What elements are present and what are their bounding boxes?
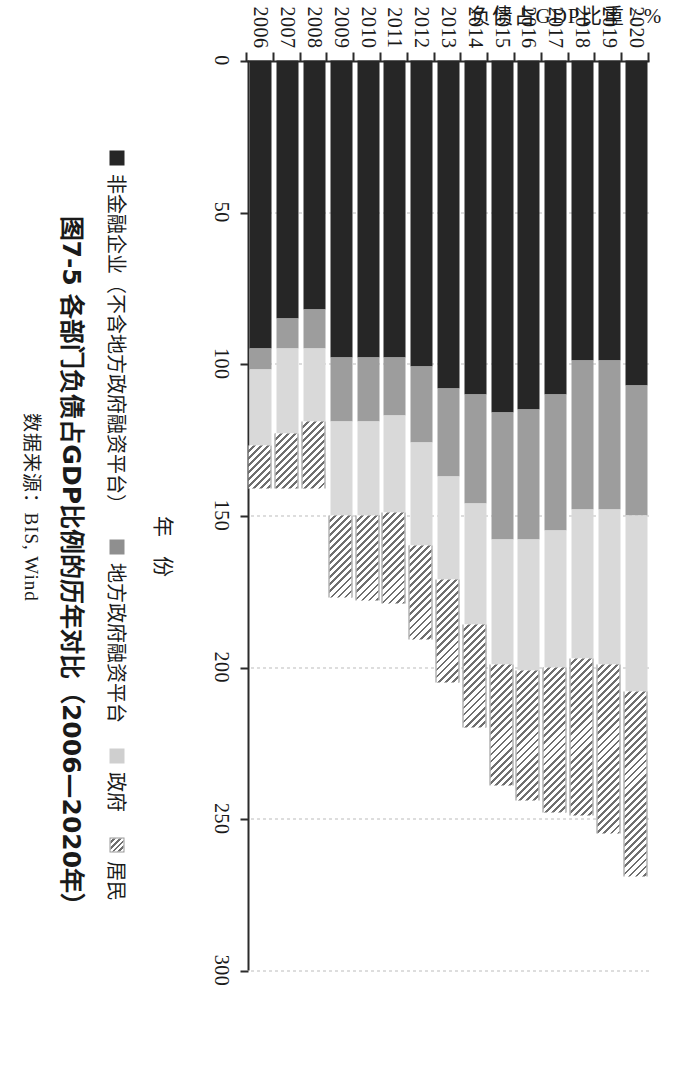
bar-segment-corporate [303,60,325,309]
bar-segment-household [408,545,432,639]
bar-segment-corporate [276,60,298,318]
bar-segment-corporate [517,60,539,409]
light-gray-solid-swatch [109,748,124,763]
bar-2019 [598,60,620,833]
bar-2014 [464,60,486,727]
bar-segment-lgfv [544,394,566,531]
bar-segment-lgfv [517,409,539,539]
hatched-swatch [109,837,124,852]
bar-2010 [357,60,379,600]
bar-segment-lgfv [410,366,432,442]
bar-segment-household [542,667,566,813]
category-tick [620,52,622,61]
value-tick [240,515,248,517]
bar-segment-lgfv [249,348,271,369]
bar-segment-lgfv [383,357,405,415]
bar-segment-corporate [491,60,513,412]
value-tick [240,212,248,214]
bar-2009 [330,60,352,597]
gridline [247,818,649,819]
data-source-note: 数据来源：BIS, Wind [19,412,46,601]
value-tick-label: 0 [209,55,232,66]
value-tick [240,667,248,669]
category-tick [540,52,542,61]
bar-segment-household [301,421,325,488]
bar-segment-lgfv [330,357,352,421]
bar-segment-household [274,433,298,488]
bar-2006 [249,60,271,488]
bar-segment-household [328,515,352,597]
category-label-2008: 2008 [303,6,326,48]
bar-segment-corporate [625,60,647,385]
legend-item-corporate: 非金融企业（不含地方政府融资平台） [102,150,131,513]
legend-label: 政府 [102,771,131,811]
y-axis-title: 负债占GDP比重 / % [469,0,662,28]
category-tick [459,52,461,61]
bar-segment-household [596,664,620,834]
bar-segment-corporate [598,60,620,360]
bar-segment-corporate [544,60,566,394]
category-label-2007: 2007 [276,6,299,48]
bar-segment-government [571,509,593,658]
category-tick [567,52,569,61]
value-tick-label: 250 [209,803,232,835]
bar-segment-government [303,348,325,421]
rotated-page-wrapper: 050100150200250300 200620072008200920102… [0,0,691,1085]
bar-2008 [303,60,325,488]
value-tick-label: 150 [209,499,232,531]
category-label-2013: 2013 [437,6,460,48]
bar-segment-lgfv [598,360,620,509]
bar-2016 [517,60,539,800]
figure: 050100150200250300 200620072008200920102… [0,0,691,1085]
bar-segment-lgfv [357,357,379,421]
bar-segment-lgfv [303,309,325,348]
category-tick [433,52,435,61]
bar-segment-lgfv [437,388,459,476]
category-label-2010: 2010 [356,6,379,48]
value-tick [240,818,248,820]
value-tick-label: 100 [209,348,232,380]
category-tick [272,52,274,61]
bar-segment-corporate [249,60,271,348]
bar-segment-government [544,530,566,667]
bar-2013 [437,60,459,682]
category-tick [593,52,595,61]
value-tick-label: 300 [209,954,232,986]
category-tick [325,52,327,61]
bar-segment-government [330,421,352,515]
bar-segment-household [569,658,593,816]
category-label-2009: 2009 [329,6,352,48]
category-tick [486,52,488,61]
bar-2018 [571,60,593,815]
category-tick [379,52,381,61]
bar-segment-lgfv [276,318,298,348]
bar-segment-corporate [383,60,405,357]
figure-caption: 图7-5 各部门负债占GDP比例的历年对比（2006—2020年） [55,215,91,918]
category-tick [406,52,408,61]
bar-segment-household [247,445,271,487]
chart-plot-area: 050100150200250300 200620072008200920102… [247,60,649,970]
bar-segment-government [383,415,405,512]
bar-segment-government [517,539,539,669]
bar-segment-household [462,624,486,727]
gridline [247,970,649,971]
category-label-2006: 2006 [249,6,272,48]
bar-segment-lgfv [491,412,513,539]
bar-segment-government [491,539,513,663]
bar-segment-government [625,515,647,691]
category-tick [352,52,354,61]
value-tick-label: 50 [209,201,232,222]
bar-segment-government [598,509,620,664]
bar-segment-household [623,691,647,876]
legend-item-government: 政府 [102,748,131,811]
gray-solid-swatch [109,539,124,554]
bar-segment-government [357,421,379,515]
bar-segment-lgfv [625,385,647,515]
bar-segment-household [515,670,539,800]
bar-segment-corporate [357,60,379,357]
bar-segment-government [410,442,432,545]
category-tick [299,52,301,61]
bar-2017 [544,60,566,812]
bar-segment-household [489,664,513,785]
dark-solid-swatch [109,150,124,165]
